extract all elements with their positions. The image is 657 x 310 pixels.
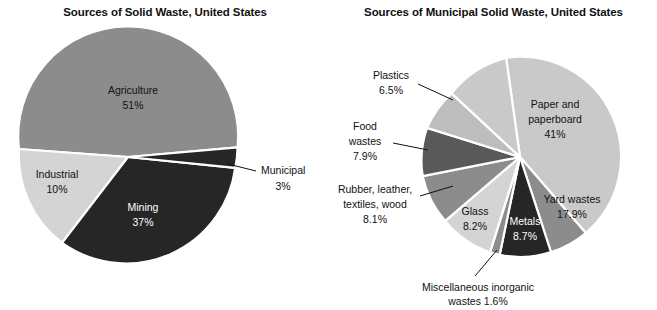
label-glass-name: Glass (462, 205, 489, 217)
leader-line-plastics (418, 84, 453, 100)
label-rubber-value: 8.1% (363, 213, 387, 225)
label-misc-value: wastes 1.6% (447, 295, 508, 307)
two-pie-chart-figure: Sources of Solid Waste, United States Ag… (0, 0, 657, 310)
label-industrial-name: Industrial (36, 168, 79, 180)
label-rubber-name-line2: textiles, wood (343, 198, 407, 210)
label-food-name-line2: wastes (348, 135, 382, 147)
leader-line-misc-inorganic (475, 250, 497, 276)
label-paper-name-line2: paperboard (528, 113, 582, 125)
right-pie-svg: Paper and paperboard 41% Yard wastes 17.… (330, 0, 657, 310)
label-municipal-name: Municipal (261, 164, 305, 176)
right-chart-panel: Sources of Municipal Solid Waste, United… (330, 0, 657, 310)
label-food-name-line1: Food (353, 120, 377, 132)
label-paper-value: 41% (544, 128, 565, 140)
label-municipal-value: 3% (275, 180, 290, 192)
left-pie-svg: Agriculture 51% Industrial 10% Mining 37… (0, 0, 330, 310)
label-industrial-value: 10% (46, 183, 67, 195)
left-chart-panel: Sources of Solid Waste, United States Ag… (0, 0, 330, 310)
label-mining-name: Mining (128, 201, 159, 213)
label-food-value: 7.9% (353, 150, 377, 162)
label-yard-value: 17.9% (557, 208, 587, 220)
label-glass-value: 8.2% (463, 220, 487, 232)
label-plastics-name: Plastics (373, 69, 409, 81)
label-plastics-value: 6.5% (379, 84, 403, 96)
label-rubber-name-line1: Rubber, leather, (338, 183, 412, 195)
label-metals-value: 8.7% (513, 230, 537, 242)
label-metals-name: Metals (510, 215, 541, 227)
label-mining-value: 37% (132, 216, 153, 228)
label-agriculture-name: Agriculture (108, 84, 158, 96)
label-paper-name-line1: Paper and (531, 98, 580, 110)
label-agriculture-value: 51% (122, 99, 143, 111)
label-misc-name: Miscellaneous inorganic (422, 281, 534, 293)
label-yard-name: Yard wastes (544, 193, 601, 205)
